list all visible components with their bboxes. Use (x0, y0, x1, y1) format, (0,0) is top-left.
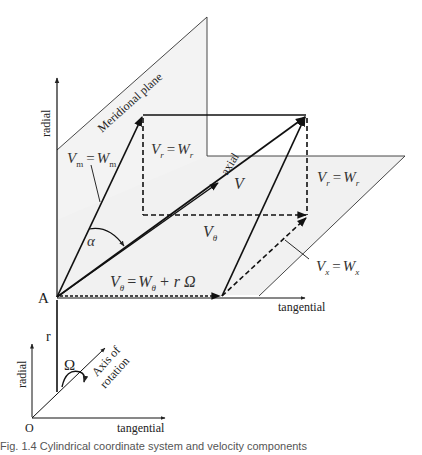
tangential-axis-label: tangential (278, 300, 326, 314)
figure-caption: Fig. 1.4 Cylindrical coordinate system a… (0, 440, 422, 455)
vx-equation: Vx=Wx (316, 258, 359, 277)
velocity-diagram: radial Meridional plane tangential axial… (0, 0, 422, 455)
point-a-label: A (38, 290, 49, 306)
radial-axis-label: radial (39, 109, 53, 137)
radius-label: r (46, 329, 51, 344)
alpha-symbol: α (87, 233, 96, 249)
omega-symbol: Ω (64, 357, 75, 373)
rotation-arrow-icon (62, 371, 85, 387)
origin-label: O (25, 421, 34, 435)
bottom-radial-label: radial (15, 360, 29, 388)
bottom-tangential-label: tangential (117, 421, 165, 435)
